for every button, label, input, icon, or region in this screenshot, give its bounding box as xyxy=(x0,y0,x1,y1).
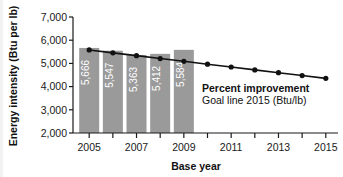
annotation-goal-line: Goal line 2015 (Btu/lb) xyxy=(202,94,306,106)
left-edge-artifact xyxy=(0,0,3,177)
y-axis-tick-labels: 2,0003,0004,0005,0006,0007,000 xyxy=(41,11,67,139)
goal-line-marker xyxy=(87,47,92,52)
bar-value-label: 5,666 xyxy=(80,60,91,85)
bar-value-label: 5,363 xyxy=(128,67,139,92)
annotation-group: Percent improvement Goal line 2015 (Btu/… xyxy=(202,82,310,106)
goal-line-marker xyxy=(300,73,305,78)
x-axis-title: Base year xyxy=(171,160,221,172)
y-tick-label: 2,000 xyxy=(41,127,67,139)
bar-value-label: 5,412 xyxy=(151,65,162,90)
x-axis-tick-marks xyxy=(89,133,326,138)
chart-canvas: Energy intensity (Btu per lb) 2,0003,000… xyxy=(0,0,343,177)
bar xyxy=(127,55,147,133)
goal-line-marker xyxy=(323,76,328,81)
y-tick-label: 4,000 xyxy=(41,80,67,92)
bar-value-label: 5,584 xyxy=(175,61,186,86)
bar xyxy=(150,54,170,133)
annotation-percent-improvement: Percent improvement xyxy=(202,82,310,94)
goal-line-marker xyxy=(229,64,234,69)
goal-line-marker xyxy=(134,53,139,58)
x-tick-label: 2013 xyxy=(267,141,291,153)
x-tick-label: 2005 xyxy=(78,141,102,153)
y-tick-label: 7,000 xyxy=(41,11,67,23)
y-tick-label: 3,000 xyxy=(41,104,67,116)
x-axis-tick-labels: 200520072009201120132015 xyxy=(78,141,338,153)
y-tick-label: 5,000 xyxy=(41,57,67,69)
x-tick-label: 2015 xyxy=(314,141,338,153)
goal-line-marker xyxy=(181,59,186,64)
y-axis-title: Energy intensity (Btu per lb) xyxy=(7,6,19,147)
y-tick-label: 6,000 xyxy=(41,34,67,46)
bar-value-label: 5,547 xyxy=(104,62,115,87)
x-tick-label: 2009 xyxy=(172,141,196,153)
goal-line-marker xyxy=(205,62,210,67)
goal-line-marker xyxy=(276,70,281,75)
x-tick-label: 2011 xyxy=(220,141,243,153)
goal-line-marker xyxy=(110,50,115,55)
energy-intensity-chart: Energy intensity (Btu per lb) 2,0003,000… xyxy=(0,0,343,177)
x-tick-label: 2007 xyxy=(125,141,149,153)
y-axis-title-group: Energy intensity (Btu per lb) xyxy=(7,6,19,147)
goal-line-marker xyxy=(252,67,257,72)
goal-line-markers xyxy=(87,47,329,81)
goal-line-marker xyxy=(158,56,163,61)
